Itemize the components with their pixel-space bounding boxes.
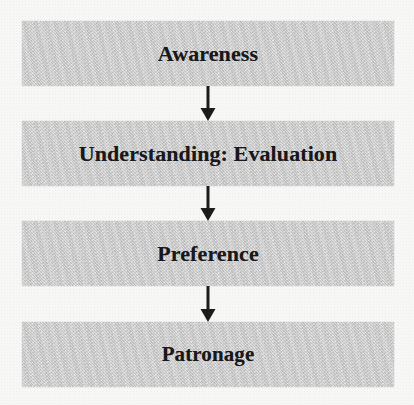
arrow-down-icon	[196, 86, 220, 121]
flowchart: Awareness Understanding: Evaluation Pref…	[0, 0, 414, 405]
arrow-down-icon	[196, 186, 220, 221]
flow-node-label: Preference	[157, 241, 259, 267]
flow-node-label: Awareness	[158, 41, 258, 67]
arrow-down-icon	[196, 286, 220, 322]
flow-node-label: Understanding: Evaluation	[79, 141, 338, 167]
flow-node-understanding-evaluation[interactable]: Understanding: Evaluation	[22, 121, 394, 186]
flow-node-patronage[interactable]: Patronage	[22, 322, 394, 387]
flow-node-label: Patronage	[162, 342, 255, 367]
flow-node-awareness[interactable]: Awareness	[22, 21, 394, 86]
flow-node-preference[interactable]: Preference	[22, 221, 394, 286]
diagram-canvas: Awareness Understanding: Evaluation Pref…	[0, 0, 414, 405]
